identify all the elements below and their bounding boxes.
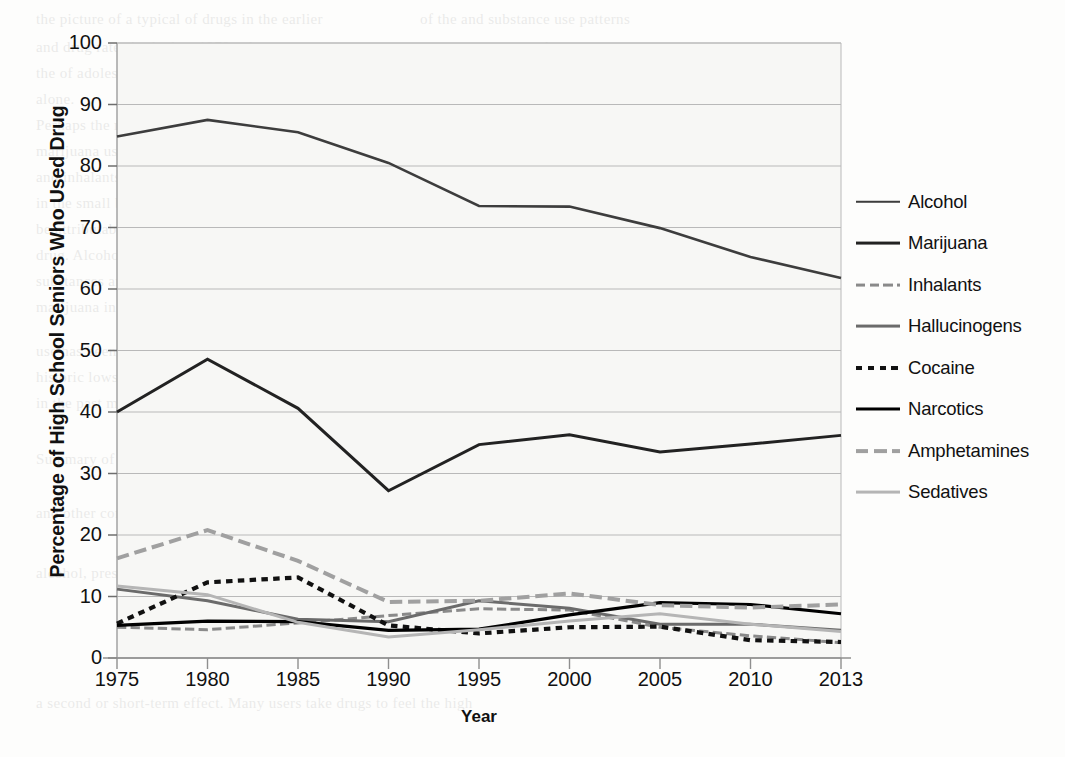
legend-line-swatch (856, 444, 900, 458)
legend-item-alcohol[interactable]: Alcohol (856, 181, 1061, 223)
chart-legend: AlcoholMarijuanaInhalantsHallucinogensCo… (856, 181, 1061, 513)
legend-item-hallucinogens[interactable]: Hallucinogens (856, 306, 1061, 348)
legend-label: Narcotics (900, 398, 983, 420)
legend-label: Alcohol (900, 191, 967, 213)
legend-item-cocaine[interactable]: Cocaine (856, 347, 1061, 389)
legend-line-swatch (856, 236, 900, 250)
legend-label: Sedatives (900, 481, 987, 503)
legend-label: Amphetamines (900, 440, 1029, 462)
legend-line-swatch (856, 402, 900, 416)
legend-label: Inhalants (900, 274, 981, 296)
legend-label: Hallucinogens (900, 315, 1022, 337)
legend-item-sedatives[interactable]: Sedatives (856, 472, 1061, 514)
legend-line-swatch (856, 195, 900, 209)
legend-label: Marijuana (900, 232, 987, 254)
legend-line-swatch (856, 361, 900, 375)
legend-item-amphetamines[interactable]: Amphetamines (856, 430, 1061, 472)
legend-line-swatch (856, 278, 900, 292)
drug-use-line-chart: Percentage of High School Seniors Who Us… (0, 0, 1065, 757)
legend-item-inhalants[interactable]: Inhalants (856, 264, 1061, 306)
legend-line-swatch (856, 319, 900, 333)
legend-item-narcotics[interactable]: Narcotics (856, 389, 1061, 431)
legend-item-marijuana[interactable]: Marijuana (856, 223, 1061, 265)
legend-label: Cocaine (900, 357, 974, 379)
legend-line-swatch (856, 485, 900, 499)
